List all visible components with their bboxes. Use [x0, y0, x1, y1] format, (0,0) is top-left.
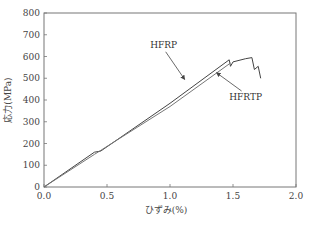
y-tick-label: 800: [23, 8, 40, 18]
hfrtp-arrow: [217, 73, 242, 91]
hfrp-arrow: [166, 52, 185, 80]
y-tick-label: 300: [23, 117, 40, 127]
x-tick-label: 1.0: [163, 191, 178, 201]
y-axis-label: 応力(MPa): [2, 77, 13, 122]
series-lines: [44, 58, 261, 187]
y-tick-label: 600: [23, 52, 40, 62]
annotation-hfrp: HFRP: [150, 40, 177, 50]
series-hfrp: [44, 58, 261, 187]
x-tick-label: 1.5: [226, 191, 241, 201]
y-tick-label: 500: [23, 73, 40, 83]
y-tick-label: 700: [23, 30, 40, 40]
stress-strain-chart: 0100200300400500600700800 0.00.51.01.52.…: [0, 0, 312, 227]
x-axis-label: ひずみ(%): [145, 205, 188, 215]
x-tick-label: 0.0: [37, 191, 52, 201]
y-axis-ticks: 0100200300400500600700800: [23, 8, 47, 192]
series-hfrtp: [44, 63, 231, 187]
x-tick-label: 0.5: [100, 191, 115, 201]
annotations: HFRPHFRTP: [150, 40, 262, 102]
annotation-hfrtp: HFRTP: [229, 92, 262, 102]
y-tick-label: 400: [23, 95, 40, 105]
y-tick-label: 100: [23, 160, 40, 170]
y-tick-label: 200: [23, 139, 40, 149]
x-tick-label: 2.0: [289, 191, 304, 201]
